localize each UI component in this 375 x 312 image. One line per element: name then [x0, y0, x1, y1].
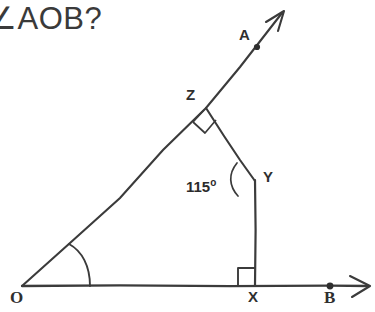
segment-ZY-line	[206, 108, 255, 181]
point-A-dot	[254, 44, 260, 50]
point-label-B: B	[324, 288, 335, 308]
right-angle-marker-X	[238, 268, 255, 286]
diagram-canvas: ∠AOB? O A B X Y Z 115o	[0, 0, 375, 312]
ray-OB-line	[22, 285, 368, 286]
angle-value-115: 115	[186, 178, 210, 195]
angle-label-115: 115o	[186, 177, 216, 195]
point-label-Y: Y	[263, 168, 273, 185]
degree-symbol: o	[210, 177, 216, 188]
right-angle-marker-Z-side	[193, 110, 204, 122]
point-label-O: O	[10, 288, 23, 308]
ray-OA-line	[22, 13, 282, 286]
point-label-Z: Z	[186, 86, 195, 103]
segment-YX-line	[255, 180, 256, 286]
point-label-X: X	[248, 288, 258, 305]
point-label-A: A	[239, 26, 250, 43]
geometry-figure	[0, 0, 375, 312]
angle-arc-Y	[231, 163, 238, 196]
angle-arc-O	[69, 244, 90, 286]
right-angle-marker-Z	[193, 120, 216, 133]
